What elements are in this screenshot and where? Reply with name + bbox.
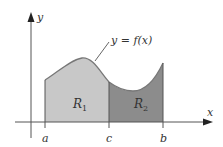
y-axis-arrow-icon [28, 12, 35, 22]
y-axis-label: y [36, 11, 44, 24]
curve-label-leader [95, 42, 109, 61]
tick-label-b: b [160, 132, 167, 145]
area-diagram: y x y = f(x) a c b R1 R2 [0, 0, 223, 147]
curve-label: y = f(x) [110, 34, 152, 47]
tick-label-c: c [106, 132, 112, 145]
region-label-r2-base: R [133, 97, 143, 111]
region-label-r1-base: R [72, 97, 82, 111]
tick-label-a: a [42, 132, 49, 145]
x-axis-arrow-icon [203, 119, 213, 126]
region-label-r1-sub: 1 [82, 104, 87, 113]
x-axis-label: x [207, 106, 214, 119]
region-r2 [109, 63, 163, 122]
region-r1 [45, 58, 109, 122]
region-label-r2-sub: 2 [143, 104, 148, 113]
